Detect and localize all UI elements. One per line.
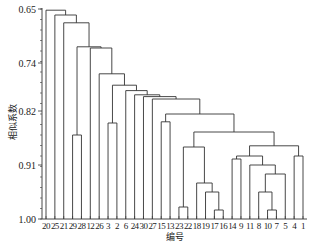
leaf-label: 16 <box>219 221 228 231</box>
leaf-label: 26 <box>95 221 104 231</box>
leaf-label: 19 <box>202 221 211 231</box>
dendrogram-link <box>143 97 176 219</box>
dendrogram-link <box>179 207 188 219</box>
leaf-label: 3 <box>106 221 111 231</box>
leaf-label: 22 <box>184 221 192 231</box>
dendrogram-link <box>250 146 299 156</box>
leaf-label: 20 <box>42 221 51 231</box>
x-axis-title: 编号 <box>166 231 184 242</box>
leaf-label: 14 <box>228 221 237 231</box>
leaf-label: 28 <box>78 221 87 231</box>
leaf-label: 4 <box>292 221 297 231</box>
leaf-label: 8 <box>257 221 262 231</box>
dendrogram-link <box>73 135 82 219</box>
dendrogram-link <box>46 10 66 219</box>
leaf-label: 9 <box>239 221 244 231</box>
leaf-labels: 2025212928122632624302715132322181917161… <box>42 221 305 231</box>
leaf-label: 10 <box>264 221 273 231</box>
dendrogram-link <box>268 210 277 219</box>
dendrogram-link <box>237 156 263 165</box>
dendrogram-link <box>64 23 89 219</box>
leaf-label: 7 <box>274 221 279 231</box>
leaf-label: 25 <box>51 221 60 231</box>
dendrogram-link <box>197 183 213 219</box>
leaf-label: 30 <box>140 221 149 231</box>
axes: 0.650.740.820.911.00 <box>19 4 308 225</box>
leaf-label: 18 <box>193 221 202 231</box>
leaf-label: 6 <box>124 221 129 231</box>
dendrogram-chart: 0.650.740.820.911.00 2025212928122632624… <box>0 0 313 246</box>
dendrogram-link <box>265 174 285 219</box>
dendrogram-link <box>99 74 124 219</box>
y-tick-label: 0.91 <box>19 160 37 171</box>
leaf-label: 29 <box>69 221 78 231</box>
dendrogram-link <box>232 159 241 219</box>
leaf-label: 27 <box>148 221 157 231</box>
dendrogram-link <box>294 156 303 219</box>
dendrogram-link <box>55 15 77 219</box>
dendrogram-link <box>194 132 274 147</box>
leaf-label: 15 <box>157 221 166 231</box>
dendrogram-link <box>183 147 204 207</box>
leaf-label: 24 <box>131 221 140 231</box>
dendrogram-link <box>126 91 147 219</box>
leaf-label: 23 <box>175 221 184 231</box>
dendrogram-link <box>206 192 219 219</box>
y-tick-label: 0.82 <box>19 106 37 117</box>
leaf-label: 11 <box>246 221 254 231</box>
dendrogram-link <box>152 99 199 219</box>
dendrogram-link <box>214 210 223 219</box>
dendrogram-link <box>108 123 117 219</box>
y-tick-label: 1.00 <box>19 214 37 225</box>
leaf-label: 1 <box>301 221 305 231</box>
leaf-label: 21 <box>60 221 68 231</box>
y-tick-label: 0.74 <box>19 58 37 69</box>
leaf-label: 2 <box>115 221 119 231</box>
y-axis-title: 相似系数 <box>7 104 18 140</box>
dendrogram-link <box>135 95 160 219</box>
y-tick-label: 0.65 <box>19 4 37 15</box>
leaf-label: 5 <box>283 221 288 231</box>
dendrogram-tree <box>46 10 303 219</box>
leaf-label: 12 <box>86 221 94 231</box>
leaf-label: 13 <box>166 221 175 231</box>
leaf-label: 17 <box>210 221 219 231</box>
dendrogram-link <box>77 47 101 135</box>
dendrogram-link <box>259 192 272 219</box>
dendrogram-link <box>161 122 170 219</box>
dendrogram-link <box>166 114 234 132</box>
